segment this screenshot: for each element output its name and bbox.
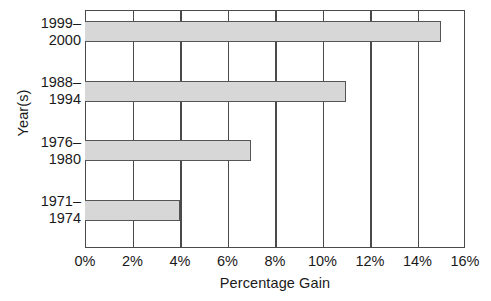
y-axis-tick-label: 1976–1980 [22, 134, 81, 168]
x-axis-tick-label: 0% [75, 253, 96, 269]
x-axis-tick-label: 4% [170, 253, 191, 269]
bar [85, 200, 180, 221]
y-axis-tick-labels: 1999–20001988–19941976–19801971–1974 [22, 10, 81, 248]
x-axis-tick-label: 12% [355, 253, 384, 269]
bar [85, 81, 346, 102]
y-axis-tick-label-line: 1980 [22, 151, 81, 168]
x-axis-tick-labels: 0%2%4%6%8%10%12%14%16% [85, 253, 465, 273]
y-axis-tick-label: 1988–1994 [22, 74, 81, 108]
y-axis-tick-label-line: 1994 [22, 91, 81, 108]
y-axis-tick-label-line: 1971– [22, 193, 81, 210]
x-axis-tick-label: 8% [265, 253, 286, 269]
y-axis-tick-label-line: 1976– [22, 134, 81, 151]
x-axis-title: Percentage Gain [85, 275, 465, 291]
y-axis-tick-label-line: 1974 [22, 210, 81, 227]
bar-chart: Year(s) 1999–20001988–19941976–19801971–… [0, 0, 491, 301]
bars-layer [85, 10, 465, 248]
bar [85, 140, 251, 161]
x-axis-tick-label: 16% [450, 253, 479, 269]
x-axis-tick-label: 2% [122, 253, 143, 269]
y-axis-tick-label: 1999–2000 [22, 15, 81, 49]
y-axis-tick-label-line: 1988– [22, 74, 81, 91]
x-axis-tick-label: 10% [308, 253, 337, 269]
y-axis-tick-label-line: 1999– [22, 15, 81, 32]
bar [85, 21, 441, 42]
x-axis-tick-label: 6% [217, 253, 238, 269]
y-axis-tick-label: 1971–1974 [22, 193, 81, 227]
x-axis-tick-label: 14% [403, 253, 432, 269]
y-axis-tick-label-line: 2000 [22, 32, 81, 49]
